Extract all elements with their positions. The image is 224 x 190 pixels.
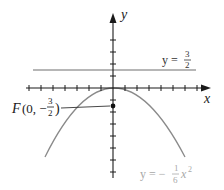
x-axis-label: x — [203, 91, 211, 106]
svg-text:y =: y = — [162, 53, 178, 67]
focus-label: F (0, − 3 2 ) — [11, 96, 60, 118]
svg-text:2: 2 — [185, 60, 190, 70]
svg-text:2: 2 — [48, 108, 53, 118]
curve-label: y = − 1 6 x 2 — [140, 163, 192, 185]
svg-text:(0, −: (0, − — [22, 101, 47, 116]
y-axis-arrow-icon — [110, 13, 117, 23]
directrix-label: y = 3 2 — [162, 49, 191, 70]
svg-text:2: 2 — [188, 165, 192, 174]
x-axis — [26, 85, 211, 92]
parabola-diagram: y x y = 3 2 F (0, − 3 2 ) y = − 1 6 x 2 — [0, 0, 224, 190]
svg-text:3: 3 — [48, 96, 53, 106]
svg-text:x: x — [180, 167, 187, 181]
y-axis — [110, 13, 117, 178]
svg-text:y = −: y = − — [140, 167, 166, 181]
svg-text:6: 6 — [173, 175, 178, 185]
svg-text:3: 3 — [185, 49, 190, 59]
focus-point — [111, 104, 116, 109]
parabola-curve — [45, 88, 185, 157]
focus-leader-line — [61, 106, 110, 108]
svg-text:): ) — [55, 101, 60, 117]
svg-text:1: 1 — [174, 163, 179, 173]
svg-text:F: F — [11, 101, 21, 116]
y-axis-label: y — [119, 7, 128, 22]
